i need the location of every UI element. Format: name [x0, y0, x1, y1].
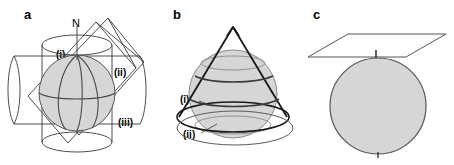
globe-b [189, 50, 277, 138]
cylinder-transverse-left-cap [8, 56, 14, 124]
globe-b-sphere [189, 50, 277, 138]
globe-c-sphere [330, 58, 426, 154]
panel-b-drawing [155, 0, 305, 165]
globe-a-sphere [39, 55, 115, 131]
panel-a-cylindrical: a N (i) (ii) (iii) [0, 0, 160, 165]
cylinder-transverse-left-inner [14, 56, 20, 124]
cylinder-bottom-ellipse [42, 132, 112, 152]
panel-b-conic: b (i) (ii) [155, 0, 305, 165]
cone-apex [227, 27, 239, 36]
globe-a [39, 26, 115, 131]
panel-a-drawing [0, 0, 160, 165]
tangent-plane [308, 34, 446, 57]
projection-figure: a N (i) (ii) (iii) [0, 0, 454, 165]
panel-c-drawing [300, 0, 454, 165]
panel-c-azimuthal: c [300, 0, 454, 165]
cylinder-transverse-right-cap [140, 56, 146, 124]
